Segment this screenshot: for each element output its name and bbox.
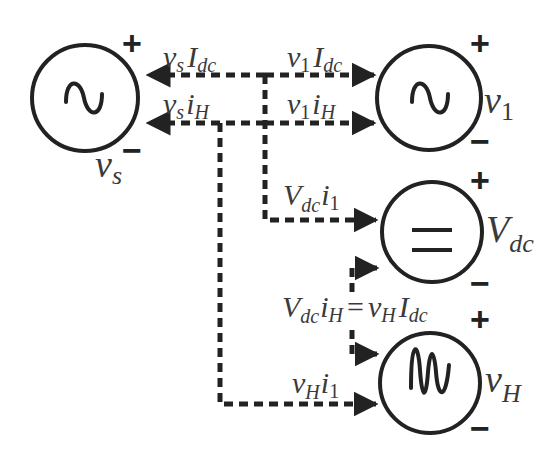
flow-label-vs-ih: vsiH: [163, 87, 210, 123]
flow-arrow-vh-i1: [220, 123, 376, 404]
vdc-label: Vdc: [486, 208, 534, 258]
flow-arrow-vh-idc: [352, 330, 377, 354]
power-flow-diagram: + − + − + − + − vs v1 Vdc vH vsIdc v1Idc…: [0, 0, 550, 452]
vh-minus-sign: −: [470, 409, 490, 447]
vs-plus-sign: +: [122, 24, 142, 62]
flow-arrow-vdc-ih: [352, 268, 377, 292]
flow-label-vdc-ih-eq-vh-idc: VdciH=vHIdc: [282, 290, 428, 327]
v1-plus-sign: +: [470, 24, 490, 62]
flow-lines: [148, 75, 377, 404]
harmonic-wave-icon: [411, 349, 449, 392]
v1-minus-sign: −: [470, 122, 490, 160]
source-vdc: [382, 182, 482, 282]
vs-label: vs: [95, 143, 122, 190]
flow-label-vh-i1: vHi1: [292, 366, 339, 403]
vdc-plus-sign: +: [470, 161, 490, 199]
sine-wave-icon: [66, 83, 102, 112]
sine-wave-icon: [412, 83, 448, 112]
vh-label: vH: [485, 358, 522, 408]
flow-label-v1-idc: v1Idc: [287, 40, 342, 76]
vdc-minus-sign: −: [470, 264, 490, 302]
vh-plus-sign: +: [470, 300, 490, 338]
source-vh: [380, 333, 480, 433]
source-v1: [377, 46, 481, 150]
v1-label: v1: [484, 79, 514, 126]
flow-label-v1-ih: v1iH: [287, 87, 337, 123]
flow-label-vs-idc: vsIdc: [163, 40, 216, 76]
vs-minus-sign: −: [122, 131, 142, 169]
flow-label-vdc-i1: Vdci1: [283, 178, 340, 216]
